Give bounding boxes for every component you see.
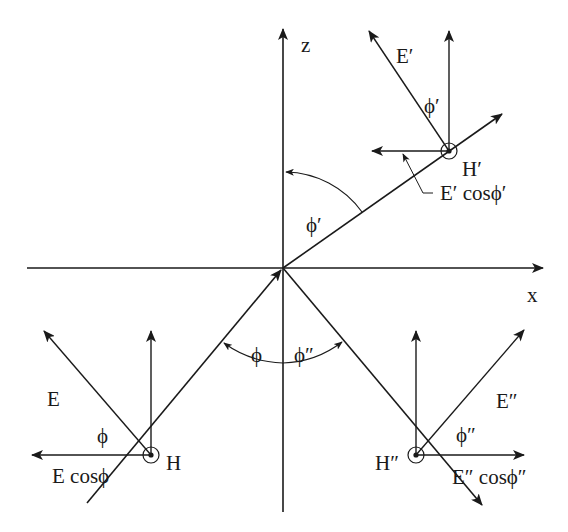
reflected-E-cos-label: E″ cosϕ″ [452,465,527,489]
incident-angle-label: ϕ [251,343,262,367]
z-axis-label: z [301,33,310,57]
upper-E-label: E′ [396,44,413,68]
reflected-angle-small-label: ϕ″ [456,423,476,447]
reflected-H-label: H″ [375,451,399,475]
reflected-angle-label: ϕ″ [294,343,314,367]
reflected-E-label: E″ [496,389,518,413]
incident-E-label: E [47,387,60,411]
upper-angle-small-label: ϕ′ [424,94,440,118]
incident-H-label: H [166,451,181,475]
incident-H-dot-icon [148,452,153,457]
upper-angle-arc [286,172,362,212]
upper-E-cos-label: E′ cosϕ′ [440,181,506,205]
upper-H-label: H′ [462,157,482,181]
x-axis-label: x [527,283,538,307]
reflected-H-dot-icon [413,452,418,457]
upper-angle-label: ϕ′ [306,213,322,237]
incident-angle-small-label: ϕ [97,424,108,448]
incident-E-cos-label: E cosϕ [52,464,109,488]
incident-ray [87,270,281,503]
em-reflection-diagram: z x ϕ′ ϕ ϕ″ E ϕ H E cosϕ E′ ϕ′ H′ E′ cos… [0,0,568,532]
upper-H-dot-icon [446,148,451,153]
